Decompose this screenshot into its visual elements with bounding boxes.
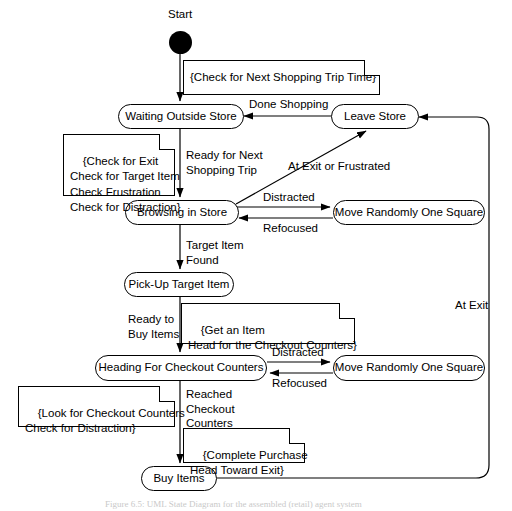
note-look-for-checkout-counters: {Look for Checkout Counters Check for Di… <box>18 386 175 427</box>
transition-label-done-shopping: Done Shopping <box>249 97 328 112</box>
note-get-an-item: {Get an Item Head for the Checkout Count… <box>181 303 355 344</box>
note-fold-corner-icon <box>364 60 380 76</box>
transition-label-refocused-browsing: Refocused <box>263 221 318 236</box>
start-state-icon <box>169 31 192 54</box>
note-fold-corner-icon <box>339 303 355 319</box>
note-complete-purchase: {Complete Purchase Head Toward Exit} <box>183 428 305 463</box>
note-browsing-checks: {Check for Exit Check for Target Item Ch… <box>63 134 175 196</box>
note-text: {Check for Next Shopping Trip Time} <box>190 70 376 85</box>
state-label: Heading For Checkout Counters <box>99 362 264 374</box>
transition-label-at-exit-or-frustrated: At Exit or Frustrated <box>288 159 390 174</box>
transition-label-ready-for-next-shopping-trip: Ready for Next Shopping Trip <box>186 148 263 177</box>
uml-state-diagram: Start Waiting Outside Store Leave Store … <box>0 0 512 511</box>
state-heading-for-checkout-counters[interactable]: Heading For Checkout Counters <box>95 355 267 381</box>
transition-label-distracted-browsing: Distracted <box>263 190 315 205</box>
state-label: Leave Store <box>344 111 406 123</box>
state-label: Pick-Up Target Item <box>129 279 230 291</box>
note-text: {Check for Exit Check for Target Item Ch… <box>70 155 181 213</box>
figure-caption: Figure 6.5: UML State Diagram for the as… <box>105 499 362 509</box>
state-move-randomly-one-square-checkout[interactable]: Move Randomly One Square <box>333 355 485 381</box>
transition-label-ready-to-buy-items: Ready to Buy Items <box>128 312 179 341</box>
note-fold-corner-icon <box>289 428 305 444</box>
transition-label-distracted-checkout: Distracted <box>272 345 324 360</box>
transition-label-at-exit: At Exit <box>455 298 488 313</box>
state-label: Waiting Outside Store <box>125 111 236 123</box>
transition-label-reached-checkout-counters: Reached Checkout Counters <box>186 387 235 431</box>
state-move-randomly-one-square-browsing[interactable]: Move Randomly One Square <box>333 200 485 225</box>
transition-label-refocused-checkout: Refocused <box>272 376 327 391</box>
note-fold-corner-icon <box>159 134 175 150</box>
note-text: {Complete Purchase Head Toward Exit} <box>190 449 308 476</box>
state-waiting-outside-store[interactable]: Waiting Outside Store <box>118 104 244 129</box>
state-label: Move Randomly One Square <box>335 207 483 219</box>
note-text: {Look for Checkout Counters Check for Di… <box>25 407 185 434</box>
start-label: Start <box>168 8 192 20</box>
note-check-next-shopping-trip-time: {Check for Next Shopping Trip Time} <box>183 60 380 95</box>
transition-label-target-item-found: Target Item Found <box>186 238 244 267</box>
state-pick-up-target-item[interactable]: Pick-Up Target Item <box>124 272 234 297</box>
note-fold-corner-icon <box>159 386 175 402</box>
state-label: Move Randomly One Square <box>335 362 483 374</box>
state-leave-store[interactable]: Leave Store <box>331 104 419 129</box>
